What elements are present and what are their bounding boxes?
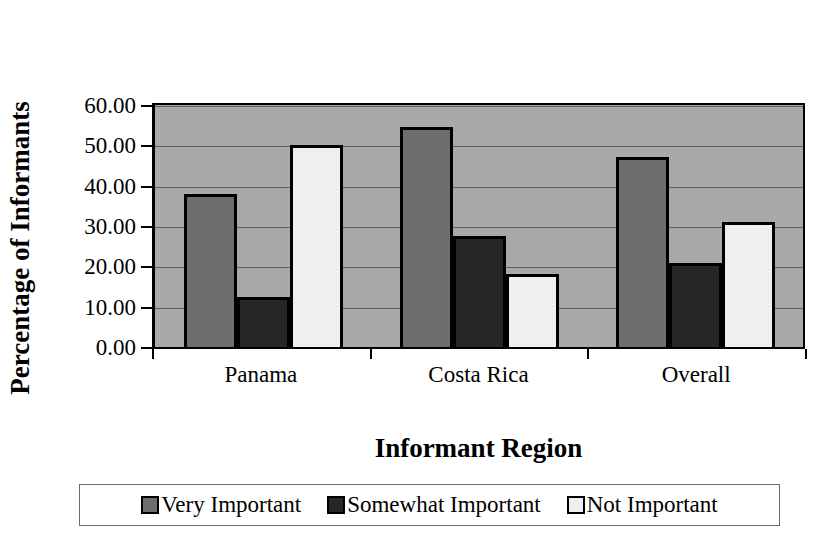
bar	[669, 263, 722, 347]
chart-legend: Very ImportantSomewhat ImportantNot Impo…	[79, 484, 780, 526]
x-axis-tick-label: Overall	[587, 362, 805, 388]
y-axis-tick-label: 50.00	[84, 133, 136, 159]
y-axis-title: Percentage of Informants	[5, 101, 36, 394]
legend-swatch-icon	[567, 496, 585, 514]
x-axis-tick-mark	[587, 349, 589, 359]
x-axis-tick-label: Panama	[152, 362, 370, 388]
y-axis-tick-label: 40.00	[84, 174, 136, 200]
y-axis-tick-label: 20.00	[84, 254, 136, 280]
x-axis-tick-mark	[152, 349, 154, 359]
legend-label: Not Important	[587, 492, 718, 518]
legend-swatch-icon	[141, 496, 159, 514]
bar	[400, 127, 453, 347]
plot-area	[152, 103, 805, 349]
x-axis-tick-mark	[370, 349, 372, 359]
legend-label: Somewhat Important	[347, 492, 541, 518]
bar-chart-figure: Percentage of Informants 60.0050.0040.00…	[0, 0, 826, 553]
y-axis-title-container: Percentage of Informants	[0, 78, 40, 418]
bar-group	[371, 105, 587, 347]
legend-swatch-icon	[327, 496, 345, 514]
legend-label: Very Important	[161, 492, 301, 518]
bar	[453, 236, 506, 347]
legend-entry[interactable]: Very Important	[141, 492, 301, 518]
bar	[506, 274, 559, 347]
bar	[722, 222, 775, 347]
y-axis-tick-label: 30.00	[84, 214, 136, 240]
x-axis-title: Informant Region	[152, 433, 805, 464]
legend-entry[interactable]: Not Important	[567, 492, 718, 518]
y-axis-tick-label: 60.00	[84, 93, 136, 119]
x-axis-tick-labels: PanamaCosta RicaOverall	[152, 362, 805, 388]
bar	[184, 194, 237, 347]
bar	[290, 145, 343, 347]
bar	[237, 297, 290, 347]
x-axis-tick-mark	[805, 349, 807, 359]
bar	[616, 157, 669, 347]
bar-group	[155, 105, 371, 347]
x-axis-tick-label: Costa Rica	[370, 362, 588, 388]
bar-group	[587, 105, 803, 347]
bar-groups	[155, 105, 803, 347]
y-axis-tick-label: 10.00	[84, 295, 136, 321]
y-axis-tick-label: 0.00	[96, 335, 136, 361]
legend-entry[interactable]: Somewhat Important	[327, 492, 541, 518]
y-axis-tick-labels: 60.0050.0040.0030.0020.0010.000.00	[44, 104, 144, 349]
